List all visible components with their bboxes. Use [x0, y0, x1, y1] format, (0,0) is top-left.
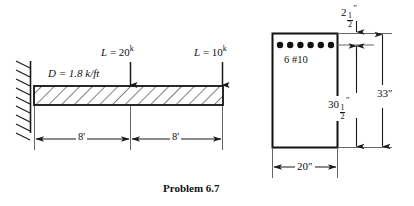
- dimension-extension-lines: [35, 106, 223, 150]
- rebar-dot: [307, 42, 313, 48]
- total-depth-dimension-label: 33″: [375, 88, 395, 99]
- effective-depth-dimension-label: 3012″: [326, 96, 352, 121]
- section-outline: [273, 34, 338, 148]
- figure-vector-layer: [0, 0, 414, 206]
- reinforcement-label: 6 #10: [284, 55, 308, 66]
- rebar-dot: [287, 42, 293, 48]
- point-load-label-midspan: L = 20k: [101, 45, 134, 58]
- cover-dimension-label: 212″: [341, 4, 357, 29]
- figure-root: D = 1.8 k/ft L = 20k L = 10k 8' 8' Probl…: [0, 0, 414, 206]
- rebar-dot: [318, 42, 324, 48]
- rebar-dot: [277, 42, 283, 48]
- width-dimension-label: 20″: [295, 161, 315, 172]
- figure-caption: Problem 6.7: [163, 182, 220, 194]
- span-dimension-label-left: 8': [76, 132, 87, 143]
- fixed-support: [16, 61, 31, 140]
- span-dimension-label-right: 8': [170, 132, 181, 143]
- distributed-load-label: D = 1.8 k/ft: [48, 68, 99, 79]
- point-load-label-free-end: L = 10k: [194, 45, 227, 58]
- beam-member: [34, 86, 223, 105]
- rebar-dot: [297, 42, 303, 48]
- rebar-dot: [328, 42, 334, 48]
